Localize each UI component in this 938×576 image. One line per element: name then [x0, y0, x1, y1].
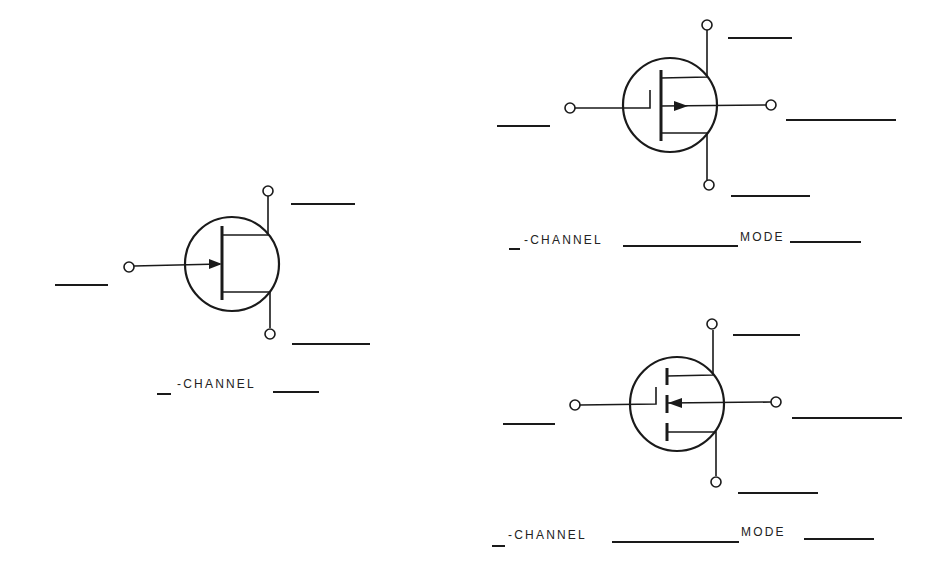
mosfet-a-channel-label: -CHANNEL: [524, 233, 603, 247]
diagram-canvas: [0, 0, 938, 576]
jfet-drain-lead: [222, 196, 268, 235]
jfet-drain-terminal[interactable]: [263, 186, 273, 196]
mosfet-a-mode-label: MODE: [740, 230, 785, 244]
jfet-source-terminal[interactable]: [265, 329, 275, 339]
jfet-gate-lead: [134, 264, 220, 266]
jfet-gate-terminal[interactable]: [124, 262, 134, 272]
jfet-channel-blank[interactable]: [273, 391, 319, 393]
mosfet-a-drain-terminal[interactable]: [702, 20, 712, 30]
jfet-gate-arrow-icon: [209, 259, 222, 269]
mosfet-a-type-blank[interactable]: [509, 248, 520, 250]
mosfet-a-gate-lead: [575, 90, 650, 108]
jfet-type-blank[interactable]: [157, 393, 171, 395]
mosfet-b-mode-blank[interactable]: [612, 541, 739, 543]
mosfet-b-substrate-arrow-icon: [668, 398, 682, 408]
mosfet-b-substrate-lead: [667, 402, 771, 403]
mosfet-b-substrate-terminal[interactable]: [771, 397, 781, 407]
mosfet-a-substrate-terminal[interactable]: [766, 100, 776, 110]
mosfet-b-gate-lead: [580, 387, 656, 405]
mosfet-a-substrate-arrow-icon: [674, 101, 688, 111]
mosfet-a-gate-terminal[interactable]: [565, 103, 575, 113]
mosfet-b-type-blank[interactable]: [492, 545, 505, 547]
mosfet-b-gate-terminal[interactable]: [570, 400, 580, 410]
mosfet-b-drain-lead: [667, 330, 713, 376]
mosfet-a-source-terminal[interactable]: [704, 180, 714, 190]
mosfet-b-channel-label: -CHANNEL: [508, 528, 587, 542]
jfet-channel-label: -CHANNEL: [177, 377, 256, 391]
mosfet-a-symbol: [497, 20, 896, 196]
mosfet-b-drain-terminal[interactable]: [707, 319, 717, 329]
mosfet-b-symbol: [503, 319, 902, 493]
mosfet-b-source-terminal[interactable]: [711, 477, 721, 487]
mosfet-a-suffix-blank[interactable]: [790, 241, 861, 243]
mosfet-b-mode-label: MODE: [741, 525, 786, 539]
mosfet-b-suffix-blank[interactable]: [804, 538, 874, 540]
jfet-symbol: [55, 186, 370, 344]
mosfet-a-drain-lead: [661, 30, 707, 78]
mosfet-a-mode-blank[interactable]: [623, 245, 738, 247]
